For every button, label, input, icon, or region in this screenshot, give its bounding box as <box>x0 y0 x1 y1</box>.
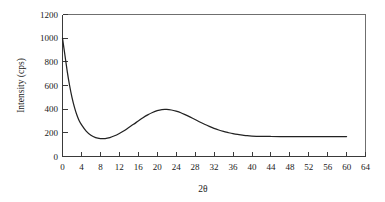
x-tick-label: 24 <box>172 162 182 172</box>
x-tick-label: 60 <box>342 162 352 172</box>
x-tick-label: 12 <box>115 162 124 172</box>
y-tick-label: 600 <box>45 81 59 91</box>
x-tick-label: 52 <box>304 162 313 172</box>
x-tick-label: 28 <box>191 162 201 172</box>
x-axis-title: 2θ <box>198 184 208 194</box>
x-tick-label: 64 <box>361 162 371 172</box>
x-tick-label: 16 <box>134 162 144 172</box>
x-tick-label: 0 <box>60 162 65 172</box>
x-tick-label: 4 <box>79 162 84 172</box>
x-tick-label: 20 <box>153 162 163 172</box>
chart-canvas: 1200 1000 800 600 400 200 0 0 4 8 12 16 … <box>0 0 385 202</box>
xrd-chart: 1200 1000 800 600 400 200 0 0 4 8 12 16 … <box>0 0 385 202</box>
x-tick-label: 56 <box>323 162 333 172</box>
y-tick-label: 0 <box>54 152 59 162</box>
y-tick-label: 1000 <box>40 33 59 43</box>
y-tick-label: 400 <box>45 104 59 114</box>
x-tick-label: 40 <box>248 162 258 172</box>
y-tick-label: 200 <box>45 128 59 138</box>
x-tick-label: 36 <box>229 162 239 172</box>
y-axis-title: Intensity (cps) <box>16 58 27 113</box>
y-tick-label: 1200 <box>40 10 59 20</box>
x-tick-label: 32 <box>210 162 219 172</box>
x-tick-label: 44 <box>266 162 276 172</box>
x-tick-label: 8 <box>98 162 103 172</box>
x-tick-label: 48 <box>285 162 295 172</box>
y-tick-label: 800 <box>45 57 59 67</box>
